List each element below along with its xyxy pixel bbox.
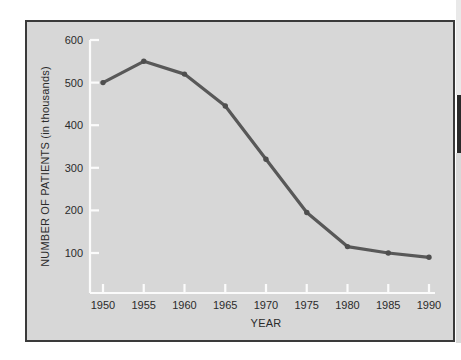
x-tick-label: 1990	[417, 299, 441, 311]
x-tick-label: 1980	[335, 299, 359, 311]
y-axis-tick-labels: 100200300400500600	[65, 34, 83, 259]
data-point	[426, 255, 431, 260]
y-tick-label: 100	[65, 247, 83, 259]
y-axis-title: NUMBER OF PATIENTS (in thousands)	[39, 66, 51, 267]
scan-edge-artifact-dark	[457, 95, 461, 153]
data-series-markers	[100, 59, 431, 260]
chart-figure-frame: 100200300400500600 195019551960196519701…	[25, 20, 455, 342]
y-tick-label: 300	[65, 162, 83, 174]
x-tick-label: 1950	[91, 299, 115, 311]
x-axis-tick-labels: 195019551960196519701975198019851990	[91, 299, 441, 311]
line-chart: 100200300400500600 195019551960196519701…	[27, 22, 453, 340]
x-tick-label: 1955	[132, 299, 156, 311]
x-tick-label: 1960	[172, 299, 196, 311]
data-point	[223, 103, 228, 108]
x-tick-label: 1985	[376, 299, 400, 311]
data-point	[386, 250, 391, 255]
scan-edge-artifact-bottom	[456, 153, 461, 343]
x-axis-title: YEAR	[251, 317, 282, 329]
y-tick-label: 200	[65, 204, 83, 216]
data-point	[263, 157, 268, 162]
y-tick-label: 400	[65, 119, 83, 131]
data-point	[182, 71, 187, 76]
scan-edge-artifact-top	[456, 0, 461, 95]
x-axis-ticks	[103, 284, 429, 293]
data-point	[100, 80, 105, 85]
data-point	[141, 59, 146, 64]
data-point	[304, 210, 309, 215]
y-tick-label: 500	[65, 77, 83, 89]
plot-area: 100200300400500600 195019551960196519701…	[27, 22, 453, 340]
data-point	[345, 244, 350, 249]
y-tick-label: 600	[65, 34, 83, 46]
x-tick-label: 1970	[254, 299, 278, 311]
x-tick-label: 1965	[213, 299, 237, 311]
y-axis-ticks	[90, 40, 99, 253]
x-tick-label: 1975	[295, 299, 319, 311]
